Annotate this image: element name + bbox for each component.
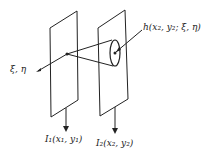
arrowhead-output <box>112 128 118 134</box>
arrowhead-input <box>63 126 69 132</box>
input-intensity-label: I₁(x₁, y₁) <box>45 134 82 144</box>
ray-lower <box>67 54 113 66</box>
ray-upper <box>67 40 112 54</box>
arrowhead-source <box>36 68 41 72</box>
source-coords-label: ξ, η <box>10 64 26 74</box>
source-leader-line <box>38 54 67 71</box>
input-plane <box>50 11 78 117</box>
impulse-response-label: h(x₂, y₂; ξ, η) <box>143 22 201 32</box>
output-intensity-label: I₂(x₂, y₂) <box>96 138 133 148</box>
source-point <box>66 53 69 56</box>
